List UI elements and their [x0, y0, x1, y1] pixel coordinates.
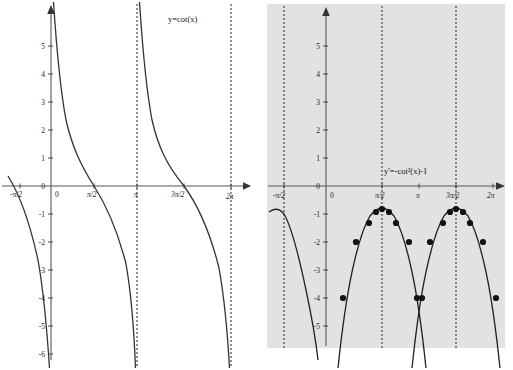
data-point — [453, 206, 459, 212]
y-tick-2: 2 — [316, 126, 320, 135]
x-tick-three-half-pi: 3π/2 — [445, 191, 460, 200]
y-tick-5: 5 — [41, 42, 45, 51]
x-axis-arrow — [243, 182, 251, 190]
y-tick-1: 1 — [41, 154, 45, 163]
y-tick-4: 4 — [316, 70, 320, 79]
x-tick-two-pi: 2π — [226, 192, 234, 201]
plot-background — [267, 4, 505, 348]
data-point — [366, 220, 372, 226]
data-point — [440, 220, 446, 226]
x-tick-zero: 0 — [55, 190, 59, 199]
y-tick-4: 4 — [41, 70, 45, 79]
x-tick-half-pi: π/2 — [87, 190, 97, 199]
y-tick-1: 1 — [316, 154, 320, 163]
y-tick-neg4: -4 — [314, 294, 320, 303]
x-tick-neg-half-pi: -π/2 — [273, 191, 285, 200]
x-axis — [2, 182, 251, 190]
y-tick-neg5: -5 — [314, 322, 320, 331]
y-tick-5: 5 — [316, 42, 320, 51]
data-point — [373, 209, 379, 215]
x-tick-two-pi: 2π — [487, 191, 495, 200]
equation-label-cot: y=cot(x) — [168, 14, 198, 24]
data-point — [393, 220, 399, 226]
data-point — [480, 239, 486, 245]
data-point — [379, 206, 385, 212]
equation-label-derivative: y'=-cot²(x)-1 — [384, 166, 427, 176]
left-plot-panel: 0 1 2 3 4 5 -1 -2 -3 -4 -5 -6 — [0, 0, 257, 370]
data-point — [493, 295, 499, 301]
y-tick-neg2: -2 — [314, 238, 320, 247]
x-tick-three-half-pi: 3π/2 — [170, 190, 185, 199]
data-point — [353, 239, 359, 245]
y-tick-neg5: -5 — [39, 322, 45, 331]
data-point — [414, 295, 420, 301]
data-point — [447, 209, 453, 215]
derivative-chart-svg: 0 1 2 3 4 5 -1 -2 -3 -4 -5 — [258, 0, 513, 370]
data-point — [386, 209, 392, 215]
data-point — [460, 209, 466, 215]
y-tick-neg6: -6 — [39, 350, 45, 359]
x-tick-pi: π — [134, 190, 138, 199]
y-tick-neg3: -3 — [314, 266, 320, 275]
cotangent-chart-svg: 0 1 2 3 4 5 -1 -2 -3 -4 -5 -6 — [0, 0, 257, 370]
y-axis — [47, 5, 55, 360]
x-tick-half-pi: π/2 — [375, 191, 385, 200]
y-tick-3: 3 — [41, 98, 45, 107]
y-tick-0: 0 — [41, 182, 45, 191]
data-point — [406, 239, 412, 245]
data-point — [340, 295, 346, 301]
x-tick-labels: -π/2 0 π/2 π 3π/2 2π — [10, 190, 234, 201]
x-tick-pi: π — [416, 191, 420, 200]
two-panel-figure: 0 1 2 3 4 5 -1 -2 -3 -4 -5 -6 — [0, 0, 513, 370]
y-tick-3: 3 — [316, 98, 320, 107]
right-plot-panel: 0 1 2 3 4 5 -1 -2 -3 -4 -5 — [258, 0, 513, 370]
y-tick-neg1: -1 — [314, 210, 320, 219]
data-point — [427, 239, 433, 245]
y-tick-2: 2 — [41, 126, 45, 135]
y-tick-0: 0 — [316, 182, 320, 191]
y-tick-neg2: -2 — [39, 238, 45, 247]
x-tick-zero: 0 — [330, 191, 334, 200]
y-tick-neg1: -1 — [39, 210, 45, 219]
data-point — [467, 220, 473, 226]
